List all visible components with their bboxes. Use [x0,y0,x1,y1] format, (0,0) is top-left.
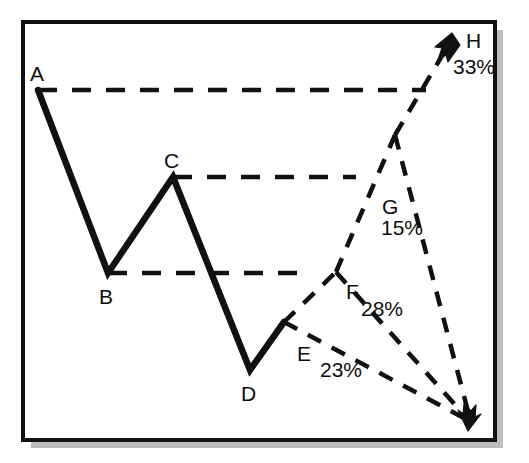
percent-label-g: 15% [381,217,423,238]
figure-root: A B C D E F G H 23% 28% 15% 33% [0,0,529,463]
point-label-f: F [346,281,359,302]
point-label-b: B [99,286,113,307]
percent-label-f: 28% [361,298,403,319]
point-label-e: E [297,343,311,364]
point-label-a: A [30,63,44,84]
percent-label-e: 23% [320,359,362,380]
point-label-g: G [382,196,398,217]
percent-label-h: 33% [453,56,495,77]
zigzag-projection-chart [0,0,529,463]
point-label-h: H [466,30,481,51]
point-label-d: D [241,383,256,404]
point-label-c: C [164,150,179,171]
